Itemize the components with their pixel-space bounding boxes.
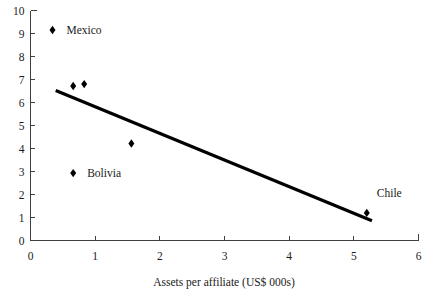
data-point-marker: [70, 169, 76, 177]
chart-canvas: 012345678910 0123456 MexicoBoliviaChile …: [0, 0, 431, 297]
y-tick-label: 6: [19, 97, 25, 109]
y-tick-label: 8: [19, 51, 25, 63]
x-tick-label: 5: [351, 250, 357, 262]
data-point-marker: [49, 26, 55, 34]
trend-line-segment: [56, 91, 372, 221]
data-markers: [49, 26, 369, 217]
y-tick-label: 0: [19, 235, 25, 247]
y-axis-tick-labels: 012345678910: [13, 5, 25, 247]
axes: [31, 11, 419, 241]
x-tick-label: 1: [92, 250, 98, 262]
y-tick-label: 4: [19, 143, 25, 155]
data-point-marker: [364, 209, 370, 217]
x-tick-label: 3: [222, 250, 228, 262]
x-axis-tick-labels: 0123456: [28, 250, 422, 262]
data-point-label: Mexico: [66, 24, 101, 36]
data-point-label: Chile: [377, 187, 402, 199]
data-point-marker: [70, 82, 76, 90]
trend-line: [56, 91, 372, 221]
y-tick-label: 2: [19, 189, 25, 201]
y-tick-label: 5: [19, 120, 25, 132]
data-point-marker: [81, 80, 87, 88]
x-axis-ticks: [31, 236, 419, 241]
x-tick-label: 2: [157, 250, 163, 262]
scatter-chart: 012345678910 0123456 MexicoBoliviaChile …: [0, 0, 431, 297]
x-tick-label: 4: [286, 250, 292, 262]
y-tick-label: 1: [19, 212, 25, 224]
data-point-labels: MexicoBoliviaChile: [66, 24, 401, 199]
y-tick-label: 3: [19, 166, 25, 178]
data-point-marker: [128, 139, 134, 147]
y-tick-label: 7: [19, 74, 25, 86]
x-tick-label: 0: [28, 250, 34, 262]
y-tick-label: 9: [19, 28, 25, 40]
x-tick-label: 6: [416, 250, 422, 262]
data-point-label: Bolivia: [87, 167, 121, 179]
x-axis-title: Assets per affiliate (US$ 000s): [153, 276, 295, 289]
y-tick-label: 10: [13, 5, 25, 17]
y-axis-ticks: [31, 11, 35, 241]
